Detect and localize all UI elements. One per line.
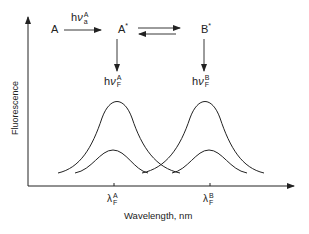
absorption-sup: A	[84, 11, 89, 18]
star-a: *	[125, 22, 128, 29]
emission-a-sup: A	[117, 74, 122, 81]
curve-b-large	[142, 102, 264, 174]
absorption-sub: a	[84, 18, 88, 25]
emission-a-sub: F	[117, 81, 121, 88]
tick-a-sub: F	[113, 199, 117, 206]
emission-a-label: hν A F	[104, 76, 123, 88]
y-axis-label: Fluorescence	[10, 81, 20, 135]
emission-b-sup: B	[205, 74, 210, 81]
emission-b-label: hν B F	[192, 76, 211, 88]
tick-b-sub: F	[209, 199, 213, 206]
tick-a-sup: A	[113, 192, 118, 199]
tick-label-lambda-a: λ A F	[107, 194, 119, 206]
diagram-canvas	[0, 0, 309, 234]
curve-b-small	[172, 150, 247, 173]
star-b: *	[208, 22, 211, 29]
tick-b-sup: B	[209, 192, 214, 199]
absorption-label: hν A a	[71, 12, 90, 24]
tick-label-lambda-b: λ B F	[203, 194, 215, 206]
state-b-excited: B*	[201, 24, 211, 35]
x-axis-label: Wavelength, nm	[124, 210, 192, 221]
state-a-ground: A	[51, 24, 58, 35]
emission-b-sub: F	[205, 81, 209, 88]
curve-a-large	[58, 102, 180, 174]
state-a-excited: A*	[118, 24, 128, 35]
